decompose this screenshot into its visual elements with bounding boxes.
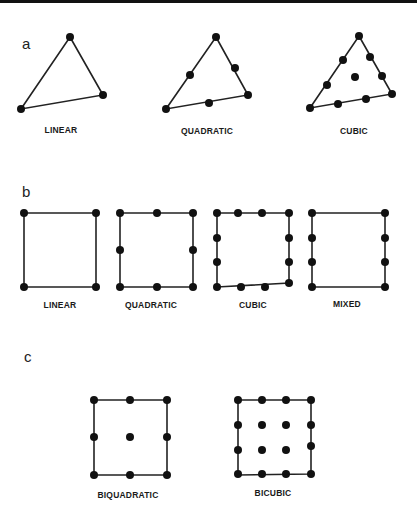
node-dot: [307, 396, 315, 404]
element-outline: [24, 213, 96, 287]
element-outline: [217, 213, 289, 287]
node-dot: [90, 471, 98, 479]
panel-letter: c: [24, 348, 32, 365]
node-dot: [351, 73, 359, 81]
node-dot: [153, 209, 161, 217]
node-dot: [234, 446, 242, 454]
panel-letter: a: [22, 35, 31, 52]
panel-letter: b: [22, 183, 30, 200]
node-dot: [308, 209, 316, 217]
node-dot: [189, 246, 197, 254]
node-dot: [66, 33, 74, 41]
node-dot: [189, 209, 197, 217]
node-dot: [212, 33, 220, 41]
element-label: QUADRATIC: [125, 300, 177, 310]
element-biquadratic: BIQUADRATIC: [90, 396, 171, 500]
element-outline: [166, 37, 248, 109]
node-dot: [20, 209, 28, 217]
node-dot: [90, 396, 98, 404]
node-dot: [163, 471, 171, 479]
node-dot: [307, 442, 315, 450]
node-dot: [17, 105, 25, 113]
node-dot: [381, 283, 389, 291]
node-dot: [261, 283, 269, 291]
node-dot: [234, 421, 242, 429]
node-dot: [258, 470, 266, 478]
node-dot: [234, 470, 242, 478]
node-dot: [366, 53, 374, 61]
element-outline: [312, 213, 385, 287]
finite-element-diagram: aLINEARQUADRATICCUBICbLINEARQUADRATICCUB…: [0, 0, 417, 512]
element-label: BICUBIC: [255, 488, 292, 498]
element-linear: LINEAR: [20, 209, 100, 310]
node-dot: [282, 396, 290, 404]
node-dot: [308, 234, 316, 242]
node-dot: [306, 104, 314, 112]
node-dot: [258, 396, 266, 404]
node-dot: [282, 446, 290, 454]
node-dot: [258, 446, 266, 454]
node-dot: [355, 32, 363, 40]
node-dot: [153, 283, 161, 291]
node-dot: [323, 81, 331, 89]
node-dot: [126, 396, 134, 404]
node-dot: [20, 283, 28, 291]
node-dot: [126, 433, 134, 441]
node-dot: [92, 209, 100, 217]
node-dot: [213, 258, 221, 266]
node-dot: [205, 99, 213, 107]
node-dot: [285, 258, 293, 266]
node-dot: [381, 234, 389, 242]
element-outline: [120, 213, 193, 287]
node-dot: [116, 246, 124, 254]
node-dot: [99, 91, 107, 99]
node-dot: [234, 396, 242, 404]
panel-c: cBIQUADRATICBICUBIC: [24, 348, 315, 500]
node-dot: [234, 209, 242, 217]
node-dot: [307, 421, 315, 429]
node-dot: [285, 209, 293, 217]
panel-a: aLINEARQUADRATICCUBIC: [17, 32, 396, 136]
element-label: CUBIC: [239, 300, 267, 310]
node-dot: [308, 258, 316, 266]
node-dot: [362, 95, 370, 103]
element-quadratic: QUADRATIC: [116, 209, 197, 310]
node-dot: [162, 105, 170, 113]
node-dot: [334, 100, 342, 108]
node-dot: [213, 283, 221, 291]
element-label: LINEAR: [45, 125, 78, 135]
element-mixed: MIXED: [308, 209, 389, 309]
node-dot: [186, 71, 194, 79]
node-dot: [90, 433, 98, 441]
node-dot: [307, 470, 315, 478]
element-linear: LINEAR: [17, 33, 107, 135]
node-dot: [339, 56, 347, 64]
node-dot: [213, 234, 221, 242]
element-label: BIQUADRATIC: [97, 490, 158, 500]
element-quadratic: QUADRATIC: [162, 33, 252, 136]
node-dot: [381, 258, 389, 266]
node-dot: [237, 283, 245, 291]
node-dot: [258, 421, 266, 429]
element-label: MIXED: [333, 299, 361, 309]
node-dot: [163, 396, 171, 404]
node-dot: [244, 91, 252, 99]
node-dot: [282, 421, 290, 429]
node-dot: [285, 234, 293, 242]
node-dot: [126, 471, 134, 479]
node-dot: [213, 209, 221, 217]
element-cubic: CUBIC: [213, 209, 293, 310]
element-label: LINEAR: [44, 300, 77, 310]
node-dot: [116, 209, 124, 217]
node-dot: [381, 209, 389, 217]
node-dot: [258, 209, 266, 217]
node-dot: [231, 64, 239, 72]
node-dot: [92, 283, 100, 291]
panel-b: bLINEARQUADRATICCUBICMIXED: [20, 183, 389, 310]
element-bicubic: BICUBIC: [234, 396, 315, 498]
node-dot: [189, 283, 197, 291]
element-outline: [21, 37, 103, 109]
node-dot: [378, 72, 386, 80]
node-dot: [388, 90, 396, 98]
node-dot: [282, 470, 290, 478]
